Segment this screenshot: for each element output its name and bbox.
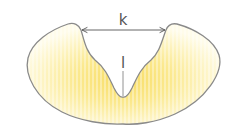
width-label: k	[119, 11, 128, 29]
crescent-diagram: k l	[0, 0, 229, 134]
depth-dimension: l	[121, 54, 125, 96]
crescent-shape	[27, 23, 220, 124]
depth-label: l	[121, 54, 125, 72]
width-dimension: k	[82, 11, 165, 30]
